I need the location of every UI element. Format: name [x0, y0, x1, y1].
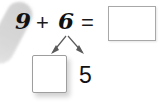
arrow-down-right-icon [76, 45, 84, 54]
known-part-value: 5 [79, 64, 92, 87]
answer-input-box[interactable] [108, 6, 156, 41]
first-addend: 9 [15, 9, 31, 32]
equals-operator: = [81, 12, 94, 34]
unknown-part-input-box[interactable] [32, 55, 67, 93]
plus-operator: + [36, 12, 49, 34]
math-worksheet-problem: 9 + 6 = 5 [0, 0, 161, 111]
second-addend: 6 [58, 9, 74, 32]
arrow-down-left-icon [51, 45, 59, 54]
